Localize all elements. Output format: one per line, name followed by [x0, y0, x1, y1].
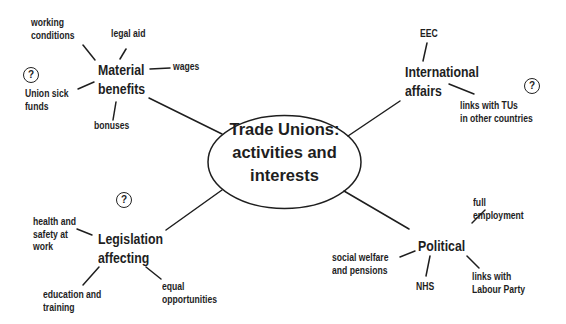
node-social-welfare: social welfare and pensions: [332, 251, 388, 276]
branch-material-benefits: Material benefits: [98, 60, 145, 98]
branch-political: Political: [418, 236, 465, 255]
spoke-legislation: [166, 190, 222, 230]
question-mark-icon: ?: [524, 78, 540, 94]
node-wages: wages: [173, 60, 199, 73]
node-education-and-training: education and training: [43, 288, 101, 313]
center-topic: Trade Unions: activities and interests: [208, 118, 361, 186]
node-full-employment: full employment: [473, 196, 524, 221]
node-nhs: NHS: [416, 280, 434, 293]
node-equal-opportunities: equal opportunities: [162, 280, 217, 305]
node-union-sick-funds: Union sick funds: [25, 87, 69, 112]
node-links-labour-party: links with Labour Party: [472, 270, 525, 295]
node-working-conditions: working conditions: [31, 16, 75, 41]
mind-map: Trade Unions: activities and interests M…: [0, 0, 566, 324]
node-eec: EEC: [420, 27, 438, 40]
branch-legislation-affecting: Legislation affecting: [98, 229, 163, 267]
branch-international-affairs: International affairs: [405, 62, 479, 100]
node-bonuses: bonuses: [94, 119, 129, 132]
question-mark-icon: ?: [23, 67, 39, 83]
node-health-and-safety: health and safety at work: [33, 215, 76, 253]
question-mark-icon: ?: [116, 192, 132, 208]
node-legal-aid: legal aid: [111, 27, 145, 40]
node-links-with-tus: links with TUs in other countries: [460, 99, 533, 124]
spoke-political: [344, 191, 409, 229]
